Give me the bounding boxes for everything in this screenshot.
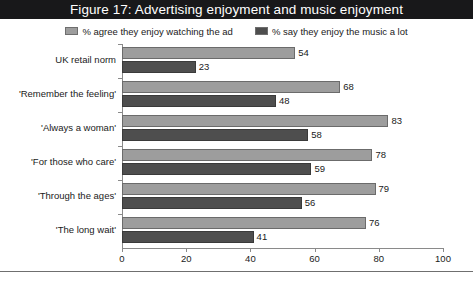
x-axis-tick-label: 100	[435, 253, 451, 264]
y-axis-tick	[118, 146, 122, 147]
x-axis-tick	[186, 248, 187, 252]
category-label: 'The long wait'	[0, 224, 116, 235]
x-axis-tick-label: 0	[119, 253, 124, 264]
x-axis-tick-label: 20	[181, 253, 192, 264]
bar-value-label: 79	[379, 183, 390, 195]
bar-value-label: 41	[257, 231, 268, 243]
bar-group: UK retail norm5423	[122, 44, 443, 78]
y-axis-tick	[118, 78, 122, 79]
bar-value-label: 54	[298, 47, 309, 59]
x-axis-tick-label: 60	[309, 253, 320, 264]
x-axis-tick	[315, 248, 316, 252]
category-label: UK retail norm	[0, 54, 116, 65]
legend-entry-series-1: % say they enjoy the music a lot	[255, 26, 408, 37]
bar-group: 'For those who care'7859	[122, 146, 443, 180]
legend-entry-series-0: % agree they enjoy watching the ad	[65, 26, 233, 37]
legend-swatch-icon-series-1	[255, 27, 268, 35]
category-label: 'Always a woman'	[0, 122, 116, 133]
x-axis-tick	[122, 248, 123, 252]
x-axis-tick	[250, 248, 251, 252]
y-axis-tick	[118, 180, 122, 181]
bar: 68	[122, 81, 340, 93]
bar-group: 'The long wait'7641	[122, 214, 443, 248]
bar-value-label: 68	[343, 81, 354, 93]
bar-value-label: 56	[305, 197, 316, 209]
bottom-divider	[0, 271, 473, 272]
bar: 58	[122, 129, 308, 141]
bar: 54	[122, 47, 295, 59]
x-axis-tick	[379, 248, 380, 252]
bar-value-label: 83	[391, 115, 402, 127]
y-axis-tick	[118, 44, 122, 45]
legend-label-series-1: % say they enjoy the music a lot	[272, 26, 408, 37]
x-axis-tick	[443, 248, 444, 252]
bar-value-label: 48	[279, 95, 290, 107]
x-axis-tick-label: 40	[245, 253, 256, 264]
bar: 78	[122, 149, 372, 161]
figure-title: Figure 17: Advertising enjoyment and mus…	[0, 0, 473, 19]
bar-group: 'Through the ages'7956	[122, 180, 443, 214]
bar-value-label: 58	[311, 129, 322, 141]
bar: 79	[122, 183, 376, 195]
bar-value-label: 59	[314, 163, 325, 175]
x-axis-line	[122, 248, 444, 249]
category-label: 'For those who care'	[0, 156, 116, 167]
bar-value-label: 78	[375, 149, 386, 161]
category-label: 'Through the ages'	[0, 190, 116, 201]
category-label: 'Remember the feeling'	[0, 88, 116, 99]
bar: 83	[122, 115, 388, 127]
legend-label-series-0: % agree they enjoy watching the ad	[82, 26, 233, 37]
y-axis-tick	[118, 112, 122, 113]
bar: 48	[122, 95, 276, 107]
legend-swatch-icon-series-0	[65, 27, 78, 35]
y-axis-tick	[118, 214, 122, 215]
bar: 56	[122, 197, 302, 209]
bar: 76	[122, 217, 366, 229]
bar-value-label: 23	[199, 61, 210, 73]
chart-legend: % agree they enjoy watching the ad % say…	[0, 24, 473, 38]
bar-group: 'Always a woman'8358	[122, 112, 443, 146]
bar: 59	[122, 163, 311, 175]
bar-group: 'Remember the feeling'6848	[122, 78, 443, 112]
bar-value-label: 76	[369, 217, 380, 229]
bar: 23	[122, 61, 196, 73]
x-axis-tick-label: 80	[374, 253, 385, 264]
bar: 41	[122, 231, 254, 243]
bar-chart: UK retail norm5423'Remember the feeling'…	[0, 42, 473, 264]
